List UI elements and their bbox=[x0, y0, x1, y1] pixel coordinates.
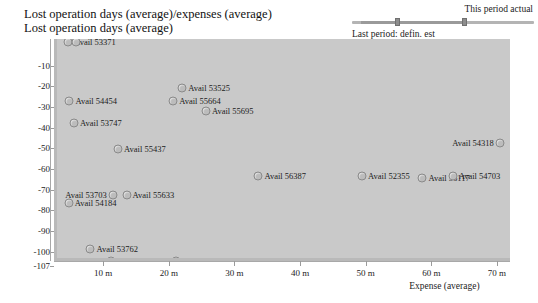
y-axis-tick-label: -60 bbox=[38, 164, 50, 174]
y-axis-tick-label: -100 bbox=[34, 247, 51, 257]
scatter-point-label: Avail 55695 bbox=[212, 107, 254, 116]
scatter-point-label: Avail 55664 bbox=[179, 96, 221, 105]
y-axis-tick-label: -10 bbox=[38, 61, 50, 71]
x-axis-tick-mark bbox=[103, 261, 104, 266]
x-axis-line bbox=[54, 261, 510, 262]
scatter-point[interactable] bbox=[254, 172, 263, 181]
scatter-point-label: Avail 54703 bbox=[459, 172, 501, 181]
plot-area[interactable]: Avail 53371Avail 53525Avail 54454Avail 5… bbox=[54, 39, 510, 261]
page-subtitle: Lost operation days (average) bbox=[24, 21, 272, 35]
x-axis-tick-label: 70 m bbox=[488, 268, 506, 278]
x-axis-tick-mark bbox=[234, 261, 235, 266]
x-axis-tick-label: 20 m bbox=[160, 268, 178, 278]
scatter-point[interactable] bbox=[114, 145, 123, 154]
y-axis-tick-label: -80 bbox=[38, 205, 50, 215]
x-axis-tick-label: 40 m bbox=[291, 268, 309, 278]
scatter-point[interactable] bbox=[122, 190, 131, 199]
x-axis-tick-mark bbox=[431, 261, 432, 266]
y-axis-tick-label: -107 bbox=[34, 261, 51, 271]
x-axis-tick-mark bbox=[169, 261, 170, 266]
scatter-point[interactable] bbox=[495, 139, 504, 148]
scatter-point-label: Avail 53525 bbox=[188, 83, 230, 92]
scatter-point-label: Avail 54454 bbox=[75, 96, 117, 105]
scatter-point-label: Avail 54184 bbox=[75, 199, 117, 208]
slider-handle-right[interactable] bbox=[462, 18, 467, 26]
scatter-point[interactable] bbox=[448, 172, 457, 181]
y-axis-tick-label: -20 bbox=[38, 81, 50, 91]
scatter-point-label: Avail 53747 bbox=[80, 118, 122, 127]
chart-title-block: Lost operation days (average)/expenses (… bbox=[24, 7, 272, 35]
x-axis-tick-label: 10 m bbox=[94, 268, 112, 278]
this-period-label: This period actual bbox=[352, 4, 534, 15]
x-axis-tick-label: 50 m bbox=[357, 268, 375, 278]
scatter-point-label: Avail 56387 bbox=[264, 172, 306, 181]
scatter-point-label: Avail 53762 bbox=[96, 244, 138, 253]
scatter-point[interactable] bbox=[418, 174, 427, 183]
x-axis-tick-mark bbox=[497, 261, 498, 266]
period-slider[interactable] bbox=[352, 17, 534, 28]
scatter-point[interactable] bbox=[86, 244, 95, 253]
scatter-point-label: Avail 55633 bbox=[133, 190, 175, 199]
x-axis-tick-mark bbox=[300, 261, 301, 266]
y-axis-tick-label: -70 bbox=[38, 185, 50, 195]
scatter-point[interactable] bbox=[65, 96, 74, 105]
scatter-point[interactable] bbox=[64, 199, 73, 208]
scatter-point-label: Avail 52355 bbox=[368, 172, 410, 181]
x-axis-tick-mark bbox=[366, 261, 367, 266]
y-axis-tick-label: -50 bbox=[38, 143, 50, 153]
page-title: Lost operation days (average)/expenses (… bbox=[24, 7, 272, 21]
scatter-point[interactable] bbox=[70, 118, 79, 127]
y-axis-tick-label: -30 bbox=[38, 102, 50, 112]
y-axis-line bbox=[50, 39, 51, 261]
scatter-point[interactable] bbox=[178, 83, 187, 92]
slider-handle-left[interactable] bbox=[395, 18, 400, 26]
x-axis-tick-label: 30 m bbox=[225, 268, 243, 278]
y-axis: -10-20-30-40-50-60-70-80-90-100-107 bbox=[0, 39, 50, 261]
y-axis-tick-label: -90 bbox=[38, 226, 50, 236]
x-axis: Expense (average) 10 m20 m30 m40 m50 m60… bbox=[54, 261, 510, 291]
scatter-chart: -10-20-30-40-50-60-70-80-90-100-107 Avai… bbox=[0, 34, 538, 303]
x-axis-tick-label: 60 m bbox=[422, 268, 440, 278]
scatter-point-label: Avail 54318 bbox=[452, 139, 494, 148]
x-axis-title: Expense (average) bbox=[409, 281, 479, 291]
scatter-point[interactable] bbox=[169, 96, 178, 105]
scatter-point-label: Avail 55437 bbox=[124, 145, 166, 154]
y-axis-tick-label: -40 bbox=[38, 123, 50, 133]
scatter-point[interactable] bbox=[358, 172, 367, 181]
scatter-point[interactable] bbox=[201, 107, 210, 116]
slider-selected-range bbox=[361, 21, 465, 24]
